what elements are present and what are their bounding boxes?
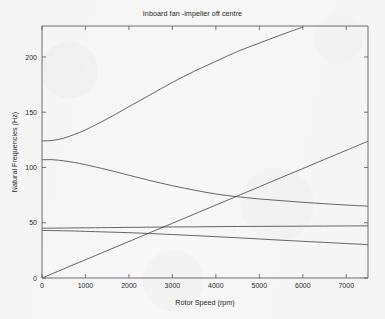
y-tick-label: 100 xyxy=(25,164,37,171)
x-tick-label: 5000 xyxy=(252,282,268,289)
campbell-diagram-plot: 0100020003000400050006000700005010015020… xyxy=(0,0,385,319)
x-tick-label: 2000 xyxy=(121,282,137,289)
x-tick-label: 3000 xyxy=(165,282,181,289)
axis-box xyxy=(42,26,368,278)
series-curve-3 xyxy=(42,230,368,244)
x-tick-label: 7000 xyxy=(338,282,354,289)
y-tick-label: 50 xyxy=(29,219,37,226)
chart-page: Inboard fan -impeller off centre 0100020… xyxy=(0,0,385,319)
series-curve-0 xyxy=(42,27,303,141)
y-tick-label: 0 xyxy=(33,275,37,282)
x-tick-label: 6000 xyxy=(295,282,311,289)
x-axis-title: Rotor Speed (rpm) xyxy=(175,298,235,307)
x-tick-label: 4000 xyxy=(208,282,224,289)
series-group xyxy=(42,27,368,278)
y-axis-title: Natural Frequencies (Hz) xyxy=(10,112,19,192)
x-tick-label: 0 xyxy=(40,282,44,289)
series-curve-1 xyxy=(42,160,368,207)
y-tick-label: 150 xyxy=(25,109,37,116)
y-tick-label: 200 xyxy=(25,54,37,61)
series-curve-4 xyxy=(42,141,368,278)
tick-marks-group xyxy=(42,26,368,278)
series-curve-2 xyxy=(42,226,368,228)
tick-labels-group: 0100020003000400050006000700005010015020… xyxy=(25,54,354,289)
x-tick-label: 1000 xyxy=(78,282,94,289)
